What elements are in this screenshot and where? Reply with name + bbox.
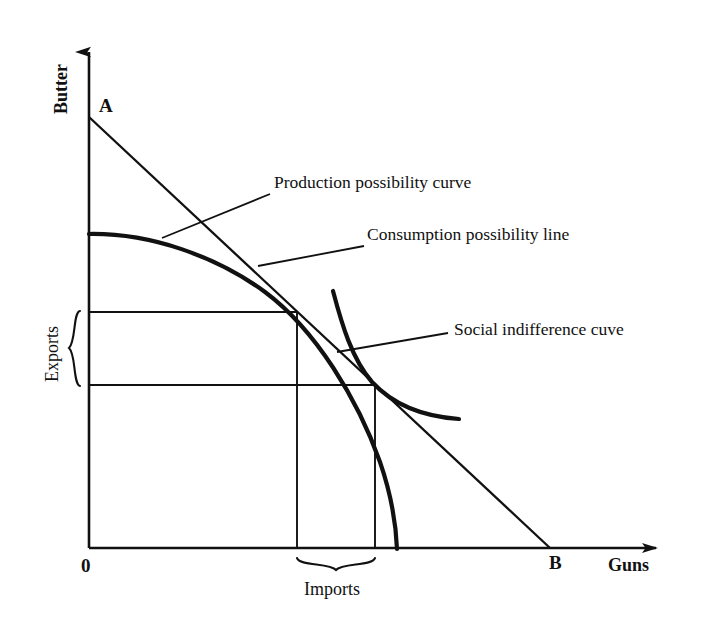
axis-group xyxy=(89,52,656,548)
guide-lines-group xyxy=(89,312,376,548)
callout-social-indifference-curve: Social indifference cuve xyxy=(454,321,624,339)
callout-consumption-possibility-line: Consumption possibility line xyxy=(367,226,569,244)
production-possibility-curve xyxy=(89,234,397,549)
diagram-canvas: Butter Guns 0 A B Production possibility… xyxy=(0,0,705,622)
x-axis-label: Guns xyxy=(608,556,649,574)
sic-leader-line xyxy=(337,333,448,352)
exports-brace xyxy=(69,311,80,386)
exports-bracket-label: Exports xyxy=(43,326,61,382)
point-b-label: B xyxy=(549,553,562,572)
point-a-label: A xyxy=(99,96,113,115)
cpl-leader-line xyxy=(258,246,364,266)
callout-production-possibility-curve: Production possibility curve xyxy=(274,174,471,192)
imports-brace xyxy=(297,558,375,570)
y-axis-label: Butter xyxy=(52,64,70,114)
imports-bracket-label: Imports xyxy=(304,580,360,598)
diagram-svg xyxy=(0,0,705,622)
origin-label: 0 xyxy=(81,556,91,575)
